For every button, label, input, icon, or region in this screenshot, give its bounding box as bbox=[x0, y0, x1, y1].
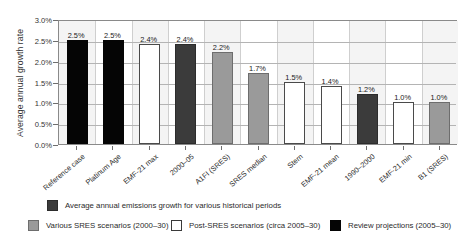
bar-value-label: 1.0% bbox=[430, 93, 447, 102]
x-axis-tick-mark bbox=[439, 146, 440, 150]
bar-value-label: 2.4% bbox=[140, 35, 157, 44]
x-axis-tick-mark bbox=[112, 146, 113, 150]
y-axis-tick-label: 1.0% bbox=[22, 99, 52, 108]
x-axis-category-label: 2000–05 bbox=[168, 152, 196, 177]
x-axis-tick-mark bbox=[403, 146, 404, 150]
bar-value-label: 2.2% bbox=[213, 43, 230, 52]
bar-8[interactable] bbox=[321, 86, 342, 144]
legend-swatch-gray bbox=[28, 220, 39, 231]
bar-value-label: 1.5% bbox=[285, 73, 302, 82]
bar-1[interactable] bbox=[67, 40, 88, 144]
y-axis-tick-label: 0.5% bbox=[22, 120, 52, 129]
bar-value-label: 2.5% bbox=[68, 31, 85, 40]
x-axis-tick-mark bbox=[76, 146, 77, 150]
y-axis-tick-label: 2.0% bbox=[22, 57, 52, 66]
x-axis-category-label: B1 (SRES) bbox=[416, 152, 449, 182]
y-axis-tick-label: 2.5% bbox=[22, 36, 52, 45]
x-axis-category-label: EMF-21 mean bbox=[299, 152, 341, 189]
bar-value-label: 1.4% bbox=[322, 77, 339, 86]
legend-item[interactable]: Various SRES scenarios (2000–30) bbox=[28, 220, 169, 231]
legend-item[interactable]: Average annual emissions growth for vari… bbox=[47, 200, 281, 211]
x-axis-tick-mark bbox=[221, 146, 222, 150]
legend-label: Post-SRES scenarios (circa 2005–30) bbox=[189, 221, 320, 230]
x-axis-category-label: EMF-21 min bbox=[377, 152, 414, 185]
x-axis-tick-mark bbox=[366, 146, 367, 150]
legend-item[interactable]: Review projections (2005–30) bbox=[330, 220, 451, 231]
x-axis-tick-mark bbox=[149, 146, 150, 150]
legend-label: Various SRES scenarios (2000–30) bbox=[46, 221, 169, 230]
bar-9[interactable] bbox=[357, 94, 378, 144]
x-axis-category-label: SRES median bbox=[227, 152, 268, 189]
x-axis-tick-mark bbox=[258, 146, 259, 150]
x-axis-category-label: 1990–2000 bbox=[343, 152, 377, 183]
legend-label: Review projections (2005–30) bbox=[348, 221, 451, 230]
bar-10[interactable] bbox=[393, 102, 414, 144]
y-axis-tick-label: 0.0% bbox=[22, 141, 52, 150]
legend-swatch-dark bbox=[47, 200, 58, 211]
x-axis-tick-mark bbox=[185, 146, 186, 150]
legend-label: Average annual emissions growth for vari… bbox=[65, 201, 281, 210]
legend-item[interactable]: Post-SRES scenarios (circa 2005–30) bbox=[171, 220, 320, 231]
legend-swatch-white bbox=[171, 220, 182, 231]
x-axis-category-label: Stern bbox=[285, 152, 304, 170]
bar-5[interactable] bbox=[212, 52, 233, 144]
y-axis-tick-mark bbox=[53, 145, 58, 146]
bar-value-label: 1.2% bbox=[358, 85, 375, 94]
x-axis-category-label: Reference case bbox=[41, 152, 86, 192]
bar-7[interactable] bbox=[284, 82, 305, 145]
bar-value-label: 1.0% bbox=[394, 93, 411, 102]
bar-value-label: 2.4% bbox=[177, 35, 194, 44]
x-axis-tick-mark bbox=[294, 146, 295, 150]
chart-legend: Average annual emissions growth for vari… bbox=[0, 198, 474, 248]
y-axis-tick-label: 3.0% bbox=[22, 16, 52, 25]
y-axis-tick-label: 1.5% bbox=[22, 78, 52, 87]
bar-4[interactable] bbox=[175, 44, 196, 144]
bar-value-label: 1.7% bbox=[249, 64, 266, 73]
bar-11[interactable] bbox=[429, 102, 450, 144]
x-axis-category-label: EMF-21 max bbox=[121, 152, 159, 186]
bar-2[interactable] bbox=[103, 40, 124, 144]
x-axis-category-label: Platinum Age bbox=[84, 152, 123, 187]
legend-swatch-black bbox=[330, 220, 341, 231]
bar-6[interactable] bbox=[248, 73, 269, 144]
chart-root: Average annual growth rate 0.0%0.5%1.0%1… bbox=[0, 0, 474, 250]
x-axis-tick-mark bbox=[330, 146, 331, 150]
bar-value-label: 2.5% bbox=[104, 31, 121, 40]
bar-3[interactable] bbox=[139, 44, 160, 144]
